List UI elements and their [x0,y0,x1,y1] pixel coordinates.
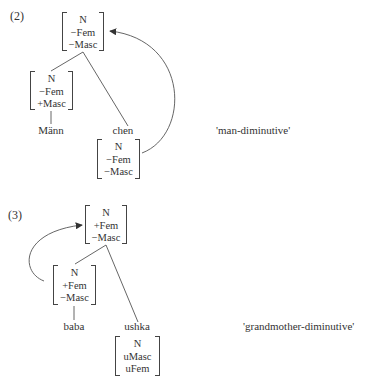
gloss: 'grandmother-diminutive' [243,320,354,332]
feature: N [85,207,127,220]
example-number: (2) [10,9,24,24]
feature-matrix-left: N +Fem −Masc [53,265,96,305]
feature: N [97,141,140,154]
feature: −Fem [30,86,73,99]
feature: N [30,73,73,86]
feature-matrix-root: N +Fem −Masc [85,205,127,244]
feature: −Masc [85,232,127,245]
feature-matrix-right: N −Fem −Masc [97,139,140,179]
example-number: (3) [8,208,22,223]
feature: uMasc [115,351,160,364]
feature: N [62,14,104,27]
feature: +Masc [30,98,73,111]
feature: N [53,267,96,280]
feature: −Masc [53,292,96,305]
leaf-word: Männ [21,124,81,136]
feature-matrix-right: N uMasc uFem [115,336,160,376]
leaf-word: baba [44,320,104,332]
feature-matrix-root: N −Fem −Masc [62,12,104,51]
feature: +Fem [85,220,127,233]
feature: −Fem [97,154,140,167]
gloss: 'man-diminutive' [216,124,290,136]
feature: −Fem [62,27,104,40]
leaf-word: chen [93,124,153,136]
feature: uFem [115,363,160,376]
leaf-word: ushka [107,320,167,332]
feature: +Fem [53,280,96,293]
feature: −Masc [62,39,104,52]
feature: −Masc [97,166,140,179]
feature-matrix-left: N −Fem +Masc [30,71,73,110]
feature: N [115,338,160,351]
